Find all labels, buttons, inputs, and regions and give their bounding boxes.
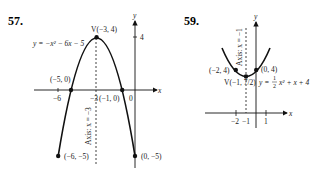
point-0-neg5	[133, 154, 137, 158]
axis-label-59: Axis: x = −1	[235, 28, 244, 66]
svg-text:y =: y =	[258, 78, 269, 87]
tick-label-neg6: −6	[53, 94, 61, 103]
x-axis-label-59: x	[288, 109, 293, 118]
point-label-neg1-0: (−1, 0)	[99, 94, 120, 103]
problem-number-57: 57.	[8, 14, 23, 28]
tick-label-neg3: −3	[90, 94, 98, 103]
point-neg6-neg5	[56, 154, 60, 158]
point-neg1-0	[120, 88, 124, 92]
point-neg5-0	[69, 88, 73, 92]
tick-label-neg2-59: −2	[231, 117, 239, 126]
axis-label-57: Axis: x = −3	[84, 107, 93, 145]
equation-57: y = −x² − 6x − 5	[32, 39, 84, 48]
point-label-neg6-neg5: (−6, −5)	[64, 152, 89, 161]
x-axis-label-57: x	[157, 86, 162, 95]
problem-number-59: 59.	[184, 14, 199, 28]
svg-text:x² + x + 4: x² + x + 4	[278, 78, 310, 87]
point-neg2-4	[234, 68, 238, 72]
tick-label-4: 4	[140, 33, 144, 42]
graph-59: 59. x y −2 −1 1 Axis: x = −1 (−2, 4) (0,…	[184, 12, 310, 128]
vertex-label-59: V(−1, 7/2)	[224, 78, 256, 87]
equation-59: y = 1 2 x² + x + 4	[258, 75, 310, 89]
point-label-neg5-0: (−5, 0)	[50, 75, 71, 84]
point-label-neg2-4: (−2, 4)	[209, 66, 230, 75]
point-label-0-neg5: (0, −5)	[141, 152, 162, 161]
point-label-0-4: (0, 4)	[261, 65, 278, 74]
graph-57: 57. x y −6 −3 0 4 Axis: x = −3 y = −x² −…	[8, 11, 162, 168]
svg-text:2: 2	[273, 83, 276, 89]
point-0-4	[254, 68, 258, 72]
y-axis-label-59: y	[253, 12, 258, 21]
figure-canvas: 57. x y −6 −3 0 4 Axis: x = −3 y = −x² −…	[0, 0, 322, 171]
vertex-point-57	[94, 35, 98, 39]
tick-label-0: 0	[129, 94, 133, 103]
tick-label-1-59: 1	[264, 117, 268, 126]
tick-label-neg1-59: −1	[242, 117, 250, 126]
svg-text:1: 1	[273, 75, 276, 81]
y-axis-label-57: y	[132, 11, 137, 20]
vertex-label-57: V(−3, 4)	[91, 25, 117, 34]
